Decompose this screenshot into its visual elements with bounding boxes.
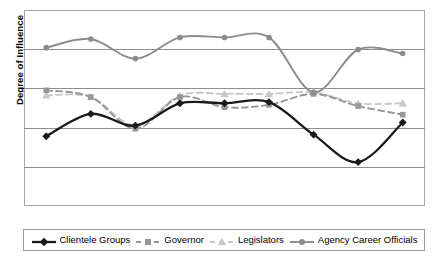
data-point-marker (177, 35, 183, 41)
legend-swatch-legislators (209, 234, 235, 246)
data-point-marker (88, 36, 94, 42)
data-point-marker (133, 56, 139, 62)
plot-area (24, 10, 425, 206)
data-point-marker (299, 239, 305, 245)
data-point-marker (43, 45, 49, 51)
series-layer (42, 33, 406, 166)
legend-swatch-governor (135, 234, 161, 246)
legend-item-clientele-groups[interactable]: Clientele Groups (31, 234, 131, 246)
data-point-marker (145, 239, 151, 245)
legend-label-clientele-groups: Clientele Groups (60, 234, 131, 246)
data-point-marker (355, 103, 361, 109)
legend-item-governor[interactable]: Governor (135, 234, 204, 246)
data-point-marker (354, 158, 362, 166)
legend-label-agency-career-officials: Agency Career Officials (318, 234, 418, 246)
legend-label-governor: Governor (164, 234, 204, 246)
series-line (46, 33, 402, 92)
data-point-marker (43, 88, 49, 94)
legend-swatch-agency-career-officials (289, 234, 315, 246)
legend-item-legislators[interactable]: Legislators (209, 234, 284, 246)
chart-legend: Clientele Groups Governor Legislators Ag… (23, 229, 425, 251)
data-point-marker (39, 238, 47, 246)
series-agency-career-officials (43, 33, 405, 95)
data-point-marker (355, 47, 361, 53)
data-point-marker (88, 94, 94, 100)
legend-label-legislators: Legislators (238, 234, 284, 246)
data-point-marker (176, 99, 184, 107)
data-point-marker (266, 35, 272, 41)
data-point-marker (177, 94, 183, 100)
legend-swatch-clientele-groups (31, 234, 57, 246)
data-point-marker (222, 35, 228, 41)
data-point-marker (400, 51, 406, 57)
data-point-marker (400, 112, 406, 118)
legend-item-agency-career-officials[interactable]: Agency Career Officials (289, 234, 418, 246)
line-chart: Degree of Influence Clientele Groups Gov… (0, 0, 439, 262)
data-point-marker (311, 90, 317, 96)
data-point-marker (87, 110, 95, 118)
